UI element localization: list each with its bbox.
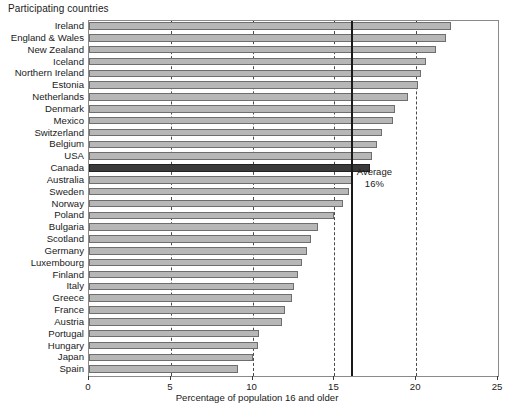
y-axis-label-northern-ireland: Northern Ireland — [0, 67, 84, 79]
bar-row — [89, 187, 498, 199]
bar-row — [89, 329, 498, 341]
bar-luxembourg — [89, 259, 302, 267]
bar-row — [89, 163, 498, 175]
x-tick-25 — [497, 376, 498, 380]
x-tick-5 — [170, 376, 171, 380]
y-axis-label-new-zealand: New Zealand — [0, 44, 84, 56]
bar-row — [89, 258, 498, 270]
y-axis-label-france: France — [0, 304, 84, 316]
bar-austria — [89, 318, 282, 326]
y-axis-label-ireland: Ireland — [0, 20, 84, 32]
bar-row — [89, 80, 498, 92]
bar-row — [89, 57, 498, 69]
y-axis-label-switzerland: Switzerland — [0, 127, 84, 139]
bar-row — [89, 317, 498, 329]
bar-row — [89, 45, 498, 57]
x-tick-10 — [252, 376, 253, 380]
bar-row — [89, 293, 498, 305]
page-title: Participating countries — [8, 3, 109, 14]
y-axis-label-spain: Spain — [0, 363, 84, 375]
bar-japan — [89, 354, 253, 362]
bar-england-wales — [89, 34, 446, 42]
average-label-line1: Average — [357, 166, 392, 178]
y-axis-label-belgium: Belgium — [0, 138, 84, 150]
x-axis-title: Percentage of population 16 and older — [0, 392, 514, 403]
y-axis-label-norway: Norway — [0, 198, 84, 210]
bar-poland — [89, 212, 334, 220]
bar-northern-ireland — [89, 70, 421, 78]
bar-row — [89, 68, 498, 80]
y-axis-label-estonia: Estonia — [0, 79, 84, 91]
bar-row — [89, 364, 498, 376]
average-line — [351, 21, 353, 376]
y-axis-label-japan: Japan — [0, 351, 84, 363]
bar-row — [89, 139, 498, 151]
y-axis-label-finland: Finland — [0, 269, 84, 281]
bar-row — [89, 92, 498, 104]
bar-usa — [89, 152, 372, 160]
bar-row — [89, 210, 498, 222]
bar-scotland — [89, 235, 311, 243]
y-axis-label-denmark: Denmark — [0, 103, 84, 115]
x-tick-label-20: 20 — [410, 381, 421, 392]
bar-row — [89, 234, 498, 246]
y-axis-label-australia: Australia — [0, 174, 84, 186]
bar-switzerland — [89, 129, 382, 137]
y-axis-label-usa: USA — [0, 150, 84, 162]
bar-row — [89, 246, 498, 258]
bar-row — [89, 222, 498, 234]
bar-canada — [89, 164, 370, 172]
plot-area: Average 16% — [88, 20, 499, 377]
y-axis-label-hungary: Hungary — [0, 340, 84, 352]
x-tick-15 — [333, 376, 334, 380]
bar-portugal — [89, 330, 259, 338]
bar-row — [89, 352, 498, 364]
y-axis-label-bulgaria: Bulgaria — [0, 221, 84, 233]
bar-row — [89, 341, 498, 353]
x-tick-label-5: 5 — [167, 381, 172, 392]
bar-norway — [89, 200, 343, 208]
y-axis-label-luxembourg: Luxembourg — [0, 257, 84, 269]
average-label-line2: 16% — [357, 178, 392, 190]
y-axis-label-sweden: Sweden — [0, 186, 84, 198]
y-axis-category-labels: IrelandEngland & WalesNew ZealandIceland… — [0, 20, 84, 375]
bar-bulgaria — [89, 223, 318, 231]
x-tick-label-10: 10 — [246, 381, 257, 392]
bar-italy — [89, 283, 294, 291]
bar-finland — [89, 271, 298, 279]
y-axis-label-mexico: Mexico — [0, 115, 84, 127]
bar-ireland — [89, 22, 451, 30]
bar-hungary — [89, 342, 258, 350]
y-axis-label-italy: Italy — [0, 280, 84, 292]
y-axis-label-germany: Germany — [0, 245, 84, 257]
x-tick-label-0: 0 — [85, 381, 90, 392]
bar-denmark — [89, 105, 395, 113]
bar-row — [89, 21, 498, 33]
x-tick-0 — [88, 376, 89, 380]
bar-row — [89, 104, 498, 116]
y-axis-label-england-wales: England & Wales — [0, 32, 84, 44]
y-axis-label-scotland: Scotland — [0, 233, 84, 245]
bar-australia — [89, 176, 352, 184]
bar-row — [89, 199, 498, 211]
y-axis-label-greece: Greece — [0, 292, 84, 304]
bar-iceland — [89, 58, 426, 66]
bar-belgium — [89, 141, 377, 149]
y-axis-label-austria: Austria — [0, 316, 84, 328]
bar-row — [89, 281, 498, 293]
bar-spain — [89, 365, 238, 373]
bar-row — [89, 305, 498, 317]
average-annotation: Average 16% — [357, 166, 392, 190]
bar-row — [89, 33, 498, 45]
x-tick-label-25: 25 — [492, 381, 503, 392]
y-axis-label-iceland: Iceland — [0, 56, 84, 68]
bar-row — [89, 116, 498, 128]
bar-new-zealand — [89, 46, 436, 54]
bar-estonia — [89, 81, 418, 89]
bar-row — [89, 128, 498, 140]
bar-row — [89, 175, 498, 187]
x-tick-label-15: 15 — [328, 381, 339, 392]
bar-france — [89, 306, 285, 314]
bar-chart: Participating countries IrelandEngland &… — [0, 0, 514, 407]
bar-netherlands — [89, 93, 408, 101]
